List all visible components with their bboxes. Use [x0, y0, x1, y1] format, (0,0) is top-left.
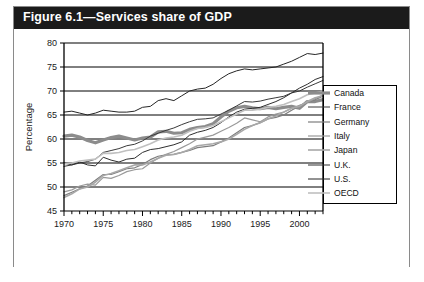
legend-swatch-germany [308, 117, 330, 127]
svg-text:1995: 1995 [250, 219, 270, 229]
legend-item-germany: Germany [324, 115, 396, 129]
legend-swatch-uk [308, 160, 330, 170]
svg-text:70: 70 [47, 86, 57, 96]
legend-item-japan: Japan [324, 143, 396, 157]
legend-item-france: France [324, 100, 396, 114]
legend-swatch-oecd [308, 188, 330, 198]
svg-text:75: 75 [47, 62, 57, 72]
svg-text:1990: 1990 [211, 219, 231, 229]
legend-label: Germany [334, 117, 369, 127]
legend-item-us: U.S. [324, 172, 396, 186]
svg-text:65: 65 [47, 110, 57, 120]
legend-swatch-canada [308, 88, 330, 98]
svg-text:60: 60 [47, 134, 57, 144]
svg-text:2000: 2000 [289, 219, 309, 229]
series-lines [64, 53, 323, 197]
x-axis-minor-ticks [64, 211, 323, 216]
svg-text:1985: 1985 [172, 219, 192, 229]
x-axis-tick-labels: 1970197519801985199019952000 [54, 219, 309, 229]
legend-label: France [334, 102, 361, 112]
chart-area: 4550556065707580 19701975198019851990199… [14, 29, 409, 268]
legend-swatch-italy [308, 131, 330, 141]
svg-text:45: 45 [47, 206, 57, 216]
legend-swatch-france [308, 102, 330, 112]
legend-label: Italy [334, 131, 350, 141]
svg-text:55: 55 [47, 158, 57, 168]
legend-label: OECD [334, 188, 359, 198]
svg-text:1980: 1980 [132, 219, 152, 229]
y-axis-tick-labels: 4550556065707580 [47, 38, 57, 216]
svg-text:1975: 1975 [93, 219, 113, 229]
svg-text:80: 80 [47, 38, 57, 48]
svg-text:1970: 1970 [54, 219, 74, 229]
legend-label: U.K. [334, 160, 351, 170]
y-axis-title: Percentage [23, 103, 34, 152]
legend-item-oecd: OECD [324, 186, 396, 200]
legend-item-uk: U.K. [324, 157, 396, 171]
svg-text:50: 50 [47, 182, 57, 192]
legend-label: U.S. [334, 174, 351, 184]
legend-label: Japan [334, 145, 357, 155]
legend-label: Canada [334, 88, 364, 98]
legend-swatch-us [308, 174, 330, 184]
legend-swatch-japan [308, 145, 330, 155]
chart-legend: CanadaFranceGermanyItalyJapanU.K.U.S.OEC… [323, 85, 397, 204]
figure-title: Figure 6.1—Services share of GDP [23, 10, 232, 24]
legend-item-canada: Canada [324, 86, 396, 100]
legend-item-italy: Italy [324, 129, 396, 143]
figure-container: Figure 6.1—Services share of GDP 4550556… [13, 6, 410, 267]
figure-title-bar: Figure 6.1—Services share of GDP [14, 7, 409, 29]
